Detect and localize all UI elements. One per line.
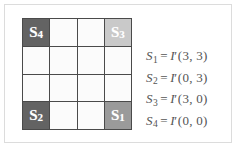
- equation-s4-equals: =: [158, 113, 171, 128]
- equation-s1-prime: ′: [174, 48, 177, 63]
- equation-s3-prime: ′: [174, 91, 177, 106]
- equation-s1-lhs: S: [146, 48, 153, 63]
- equation-s2: S2=I′(0, 3): [146, 68, 232, 90]
- grid-cell-r2c1: [50, 75, 77, 103]
- grid-cell-s3: S3: [105, 19, 132, 47]
- equation-s4-lhs-sub: 4: [153, 119, 158, 129]
- equation-s4: S4=I′(0, 0): [146, 111, 232, 133]
- cell-label-s2: S2: [29, 108, 43, 123]
- grid-cell-r3c1: [50, 102, 77, 130]
- equation-s1-args: (3, 3): [178, 48, 208, 63]
- equation-s2-equals: =: [158, 70, 171, 85]
- equation-s3: S3=I′(3, 0): [146, 89, 232, 111]
- grid-cell-s1: S1: [105, 102, 132, 130]
- equation-s3-lhs: S: [146, 91, 153, 106]
- figure-canvas: S4 S3 S2 S1 S1=: [0, 0, 236, 147]
- cell-label-s3: S3: [111, 25, 125, 40]
- equation-s3-lhs-sub: 3: [153, 98, 158, 108]
- equation-s3-args: (3, 0): [178, 91, 208, 106]
- equation-s4-prime: ′: [174, 113, 177, 128]
- equation-s2-lhs: S: [146, 70, 153, 85]
- equation-s1-equals: =: [158, 48, 171, 63]
- cell-label-s4: S4: [29, 25, 43, 40]
- grid-cell-r0c2: [78, 19, 105, 47]
- sample-grid-container: S4 S3 S2 S1: [22, 18, 132, 130]
- grid-cell-r1c0: [23, 47, 50, 75]
- grid-cell-s2: S2: [23, 102, 50, 130]
- grid-cell-r2c2: [78, 75, 105, 103]
- equation-s2-args: (0, 3): [178, 70, 208, 85]
- equation-list: S1=I′(3, 3) S2=I′(0, 3) S3=I′(3, 0) S4=I…: [146, 46, 232, 132]
- sample-grid: S4 S3 S2 S1: [22, 18, 132, 130]
- equation-s3-equals: =: [158, 91, 171, 106]
- grid-cell-r3c2: [78, 102, 105, 130]
- equation-s4-lhs: S: [146, 113, 153, 128]
- grid-cell-r1c2: [78, 47, 105, 75]
- grid-cell-r2c0: [23, 75, 50, 103]
- cell-label-s1: S1: [111, 108, 125, 123]
- equation-s2-prime: ′: [174, 70, 177, 85]
- equation-s4-args: (0, 0): [178, 113, 208, 128]
- grid-cell-r2c3: [105, 75, 132, 103]
- grid-cell-r0c1: [50, 19, 77, 47]
- equation-s1: S1=I′(3, 3): [146, 46, 232, 68]
- grid-cell-r1c3: [105, 47, 132, 75]
- grid-cell-s4: S4: [23, 19, 50, 47]
- equation-s2-lhs-sub: 2: [153, 76, 158, 86]
- grid-cell-r1c1: [50, 47, 77, 75]
- equation-s1-lhs-sub: 1: [153, 55, 158, 65]
